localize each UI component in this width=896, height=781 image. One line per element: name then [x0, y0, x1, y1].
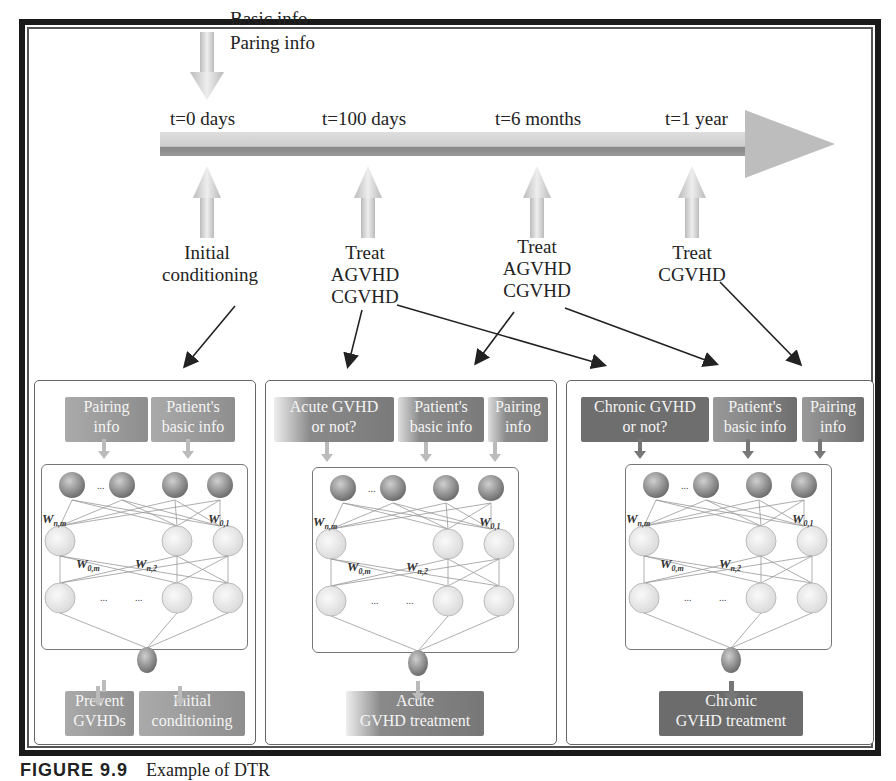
neural-network-diagram — [625, 464, 832, 650]
output-box-acute-gvhd-treatment: AcuteGVHD treatment — [346, 691, 484, 736]
output-box-initial-conditioning: Initialconditioning — [139, 691, 245, 736]
decision-label-2: TreatAGVHDCGVHD — [492, 236, 582, 302]
input-box-acute-gvhd-or-not: Acute GVHDor not? — [274, 397, 394, 442]
figure-caption-label: FIGURE 9.9 — [20, 760, 128, 780]
decision-label-0: Initialconditioning — [162, 242, 252, 286]
neural-network-diagram — [41, 464, 248, 650]
timeline-tick-0: t=0 days — [170, 108, 235, 130]
decision-label-3: TreatCGVHD — [647, 242, 737, 286]
timeline-tick-3: t=1 year — [665, 108, 728, 130]
timeline-bar — [160, 132, 760, 156]
input-label-basic: Basic info — [230, 8, 308, 30]
input-box-pairing-info: Pairinginfo — [802, 397, 864, 442]
up-arrow-icon-3 — [678, 166, 706, 238]
input-box-patient-basic-info: Patient'sbasic info — [151, 397, 235, 442]
panel-initial-conditioning: Pairinginfo Patient'sbasic info PreventG… — [34, 380, 256, 745]
up-arrow-icon-2 — [523, 166, 551, 238]
neural-network-diagram — [312, 467, 519, 653]
panel-acute-gvhd: Acute GVHDor not? Patient'sbasic info Pa… — [265, 380, 557, 745]
input-box-patient-basic-info: Patient'sbasic info — [398, 397, 484, 442]
input-label-pairing: Paring info — [230, 32, 315, 54]
timeline-arrowhead-icon — [745, 110, 835, 178]
input-box-pairing-info: Pairinginfo — [488, 397, 548, 442]
decision-label-1: TreatAGVHDCGVHD — [320, 242, 410, 308]
input-down-arrow-icon — [190, 32, 224, 100]
output-box-prevent-gvhds: PreventGVHDs — [65, 691, 134, 736]
figure-caption-text: Example of DTR — [146, 760, 270, 780]
up-arrow-icon-1 — [354, 166, 382, 238]
figure-caption: FIGURE 9.9 Example of DTR — [20, 760, 270, 781]
output-box-chronic-gvhd-treatment: ChronicGVHD treatment — [659, 691, 803, 736]
up-arrow-icon-0 — [193, 166, 221, 238]
input-box-pairing-info: Pairinginfo — [65, 397, 148, 442]
timeline-tick-2: t=6 months — [495, 108, 581, 130]
input-box-patient-basic-info: Patient'sbasic info — [713, 397, 797, 442]
panel-chronic-gvhd: Chronic GVHDor not? Patient'sbasic info … — [566, 380, 874, 745]
timeline-tick-1: t=100 days — [322, 108, 406, 130]
input-box-chronic-gvhd-or-not: Chronic GVHDor not? — [581, 397, 709, 442]
